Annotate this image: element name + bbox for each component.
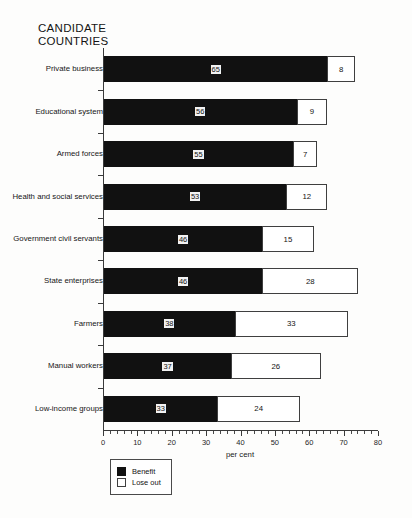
bar-value-label: 24 [254, 404, 263, 413]
x-axis-minor-tick [234, 431, 235, 434]
bar-value-label: 15 [284, 235, 293, 244]
bar-segment-benefit: 33 [104, 396, 217, 422]
bar-segment-benefit: 53 [104, 184, 286, 210]
x-axis-minor-tick [110, 431, 111, 434]
x-axis-minor-tick [117, 431, 118, 434]
x-axis-tick [275, 431, 276, 436]
bar-segment-lose-out: 26 [231, 353, 320, 379]
x-axis-minor-tick [247, 431, 248, 434]
bar-value-label: 7 [303, 150, 307, 159]
x-axis-minor-tick [351, 431, 352, 434]
bar-value-label: 65 [211, 65, 221, 74]
bar-segment-benefit: 65 [104, 56, 327, 82]
bar-segment-benefit: 56 [104, 99, 297, 125]
x-axis-tick-label: 30 [202, 438, 210, 447]
bar-value-label: 12 [302, 192, 311, 201]
x-axis-minor-tick [124, 431, 125, 434]
bar-segment-lose-out: 9 [297, 99, 328, 125]
bar-segment-lose-out: 8 [327, 56, 355, 82]
category-label: Low-income groups [3, 404, 103, 414]
category-label: Private business [3, 64, 103, 74]
bar-segment-lose-out: 7 [293, 141, 317, 167]
x-axis-minor-tick [282, 431, 283, 434]
x-axis-minor-tick [323, 431, 324, 434]
x-axis-minor-tick [227, 431, 228, 434]
bar-segment-benefit: 37 [104, 353, 231, 379]
x-axis-minor-tick [364, 431, 365, 434]
y-axis-tick [98, 133, 103, 134]
x-axis-minor-tick [302, 431, 303, 434]
x-axis-title: per cent [226, 450, 254, 459]
category-label: Farmers [3, 319, 103, 329]
x-axis-tick-label: 40 [236, 438, 244, 447]
x-axis-minor-tick [199, 431, 200, 434]
x-axis-tick-label: 60 [305, 438, 313, 447]
bar-value-label: 8 [339, 65, 343, 74]
x-axis-minor-tick [371, 431, 372, 434]
x-axis-minor-tick [254, 431, 255, 434]
bar-value-label: 26 [272, 362, 281, 371]
x-axis-tick [309, 431, 310, 436]
bar-value-label: 37 [162, 362, 172, 371]
y-axis-tick [98, 218, 103, 219]
category-label: Armed forces [3, 149, 103, 159]
x-axis-minor-tick [330, 431, 331, 434]
category-label: Manual workers [3, 361, 103, 371]
y-axis-tick [98, 90, 103, 91]
x-axis-minor-tick [165, 431, 166, 434]
bar-value-label: 38 [164, 319, 174, 328]
x-axis-minor-tick [289, 431, 290, 434]
chart-legend: BenefitLose out [110, 459, 172, 495]
x-axis-tick-label: 10 [133, 438, 141, 447]
bar-segment-benefit: 38 [104, 311, 235, 337]
x-axis-tick-label: 20 [168, 438, 176, 447]
bar-value-label: 55 [193, 150, 203, 159]
x-axis-minor-tick [131, 431, 132, 434]
x-axis-minor-tick [357, 431, 358, 434]
x-axis-tick [103, 431, 104, 436]
x-axis-minor-tick [158, 431, 159, 434]
x-axis-minor-tick [192, 431, 193, 434]
bar-segment-lose-out: 24 [217, 396, 300, 422]
x-axis-minor-tick [316, 431, 317, 434]
x-axis-tick [241, 431, 242, 436]
x-axis-minor-tick [337, 431, 338, 434]
y-axis-tick [98, 388, 103, 389]
category-label: Educational system [3, 107, 103, 117]
x-axis-minor-tick [179, 431, 180, 434]
legend-item: Lose out [117, 478, 161, 487]
x-axis-minor-tick [186, 431, 187, 434]
x-axis-tick-label: 50 [271, 438, 279, 447]
bar-segment-lose-out: 33 [235, 311, 348, 337]
bar-value-label: 53 [190, 192, 200, 201]
category-label: Health and social services [3, 192, 103, 202]
bar-segment-lose-out: 28 [262, 268, 358, 294]
x-axis-tick [172, 431, 173, 436]
x-axis-tick [206, 431, 207, 436]
bar-segment-benefit: 46 [104, 226, 262, 252]
x-axis-minor-tick [151, 431, 152, 434]
x-axis-tick-label: 0 [101, 438, 105, 447]
x-axis-minor-tick [296, 431, 297, 434]
x-axis-tick [378, 431, 379, 436]
legend-label: Lose out [132, 478, 161, 487]
bar-value-label: 33 [287, 319, 296, 328]
y-axis-tick [98, 303, 103, 304]
bar-segment-benefit: 55 [104, 141, 293, 167]
category-label: Government civil servants [3, 234, 103, 244]
legend-item: Benefit [117, 467, 161, 476]
y-axis-tick [98, 345, 103, 346]
bar-value-label: 28 [306, 277, 315, 286]
page-title: CANDIDATE COUNTRIES [38, 22, 108, 47]
chart-container: CANDIDATE COUNTRIES 65856955753124615462… [0, 0, 412, 518]
bar-value-label: 56 [195, 107, 205, 116]
x-axis-minor-tick [144, 431, 145, 434]
x-axis-tick [137, 431, 138, 436]
y-axis-tick [98, 175, 103, 176]
bar-segment-benefit: 46 [104, 268, 262, 294]
bar-value-label: 33 [156, 404, 166, 413]
legend-label: Benefit [132, 467, 155, 476]
x-axis-minor-tick [261, 431, 262, 434]
category-label: State enterprises [3, 276, 103, 286]
plot-area: 658569557531246154628383337263324 010203… [103, 48, 378, 430]
